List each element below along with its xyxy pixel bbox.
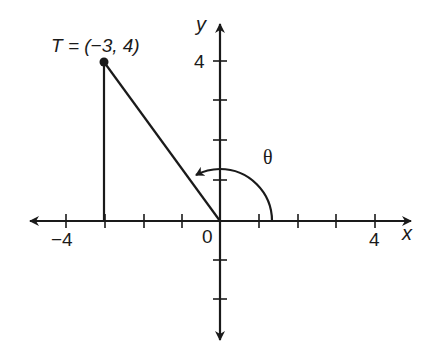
x-axis-label: x bbox=[401, 222, 413, 244]
terminal-side bbox=[104, 62, 220, 221]
y-tick-label-4: 4 bbox=[194, 51, 205, 72]
x-tick-label-neg4: −4 bbox=[51, 229, 73, 250]
angle-label: θ bbox=[263, 146, 273, 168]
point-t bbox=[100, 58, 109, 67]
origin-label: 0 bbox=[202, 226, 213, 247]
y-axis bbox=[213, 24, 227, 340]
y-axis-label: y bbox=[194, 13, 207, 35]
point-label: T = (−3, 4) bbox=[51, 35, 140, 56]
angle-arc bbox=[196, 169, 272, 221]
coordinate-plane: T = (−3, 4) y 4 θ 0 −4 4 x bbox=[0, 0, 423, 358]
x-tick-label-4: 4 bbox=[369, 229, 380, 250]
